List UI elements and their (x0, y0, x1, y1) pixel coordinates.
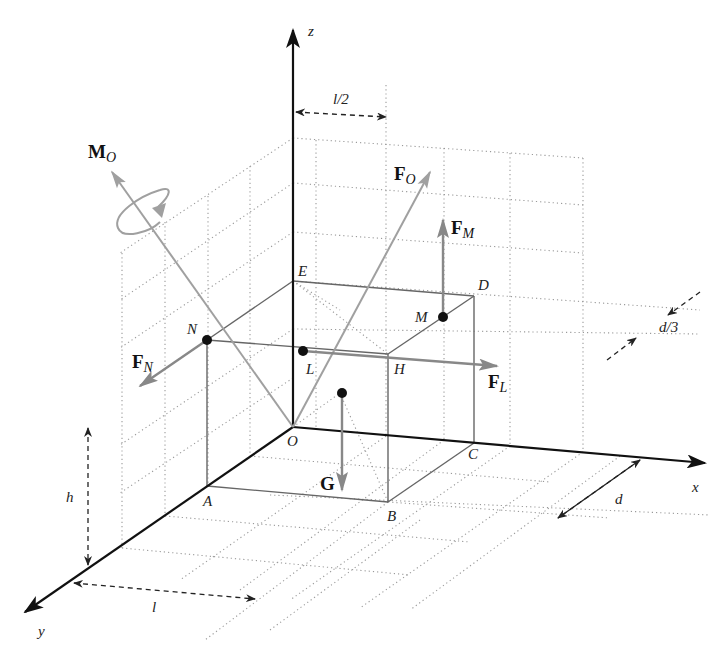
vector-label-FO: FO (394, 164, 416, 187)
point-N (202, 335, 212, 345)
dimension-lines (74, 112, 700, 599)
dim-length (74, 583, 255, 599)
dim-label-height: h (66, 490, 74, 505)
point-G (337, 388, 347, 398)
point-label-N: N (187, 322, 197, 337)
application-points (202, 312, 448, 398)
point-label-L: L (306, 362, 314, 377)
point-label-C: C (468, 447, 478, 462)
vector-label-FN: FN (132, 352, 153, 375)
grid-back-wall (293, 85, 700, 452)
point-label-B: B (387, 509, 396, 524)
point-label-A: A (203, 494, 212, 509)
point-label-M: M (415, 310, 428, 325)
point-L (298, 346, 308, 356)
point-M (438, 312, 448, 322)
y-axis (25, 427, 293, 612)
vector-label-FM: FM (451, 218, 474, 241)
dim-label-third-depth: d/3 (659, 320, 678, 335)
vector-label-G: G (320, 474, 335, 493)
vector-label-FL: FL (488, 372, 507, 395)
dim-half-length (296, 112, 386, 117)
origin-label: O (287, 434, 298, 449)
point-label-D: D (478, 278, 489, 293)
point-label-E: E (298, 264, 307, 279)
dim-label-depth: d (615, 492, 623, 507)
dim-label-half-length: l/2 (333, 92, 349, 107)
dim-label-length: l (152, 600, 156, 615)
statics-diagram: z x y O A B C D E H L M N MO FO FM FN FL… (0, 0, 728, 668)
dim-third-depth (668, 292, 700, 315)
force-FO-arrow (293, 172, 430, 427)
diagram-canvas (0, 0, 728, 668)
y-axis-label: y (38, 624, 45, 639)
vector-label-MO: MO (88, 142, 116, 165)
grid-floor (122, 436, 710, 640)
coordinate-axes (25, 30, 705, 612)
x-axis-label: x (692, 480, 699, 495)
z-axis-label: z (308, 24, 314, 39)
point-label-H: H (394, 362, 405, 377)
